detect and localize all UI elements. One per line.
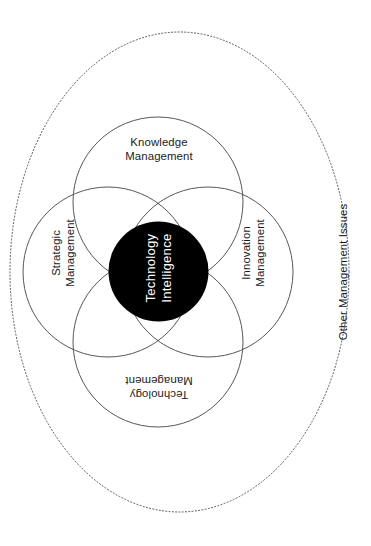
- knowledge-management-label: Knowledge Management: [88, 136, 230, 164]
- technology-intelligence-label: Technology Intelligence: [143, 207, 175, 329]
- venn-diagram: Knowledge Management Strategic Managemen…: [0, 0, 371, 546]
- strategic-management-label: Strategic Management: [50, 187, 78, 319]
- technology-management-label: Technology Management: [88, 373, 230, 401]
- innovation-management-label: Innovation Management: [240, 187, 268, 319]
- other-management-issues-label: Other Management Issues: [337, 174, 351, 370]
